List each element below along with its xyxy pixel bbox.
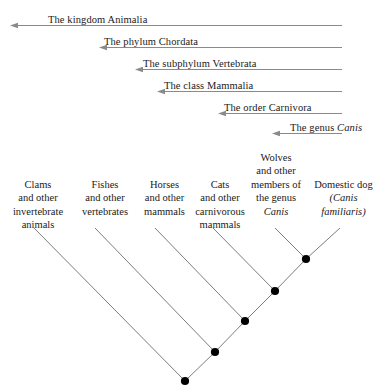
taxon-label-line: invertebrate: [2, 205, 74, 218]
taxon-label-line: Wolves: [240, 151, 312, 164]
cladogram-branch: [306, 228, 340, 259]
cladogram-node-mammalia-node: [271, 287, 279, 295]
taxon-label-line: and other: [71, 191, 139, 204]
taxon-label-line: Canis: [240, 205, 312, 218]
cladogram-node-animalia-node: [181, 377, 189, 385]
rank-row-genus: The genus Canis: [0, 114, 382, 138]
cladogram-branch: [275, 259, 306, 291]
rank-row-phylum: The phylum Chordata: [0, 28, 382, 52]
taxon-label-line: Domestic dog: [305, 178, 382, 191]
taxon-label-line: Clams: [2, 178, 74, 191]
taxon-label-italic: Canis: [264, 206, 289, 217]
taxon-label-domestic-dog: Domestic dog(Canisfamiliaris): [305, 178, 382, 218]
cladogram-node-canis-node: [302, 255, 310, 263]
rank-row-kingdom: The kingdom Animalia: [0, 6, 382, 30]
rank-row-class: The class Mammalia: [0, 72, 382, 96]
cladogram-branch: [155, 228, 245, 321]
taxon-label-wolves: Wolvesand othermembers ofthe genusCanis: [240, 151, 312, 218]
taxon-label-line: (Canis: [305, 191, 382, 204]
cladogram-branch: [213, 228, 275, 291]
cladogram-branch: [215, 321, 245, 352]
rank-row-subphylum: The subphylum Vertebrata: [0, 50, 382, 74]
taxon-label-fishes: Fishesand othervertebrates: [71, 178, 139, 218]
taxon-label-line: and other: [2, 191, 74, 204]
cladogram-branch: [95, 228, 215, 352]
cladogram-branch: [275, 228, 306, 259]
taxon-label-line: familiaris): [305, 205, 382, 218]
taxon-label-line: animals: [2, 218, 74, 231]
taxon-label-line: Fishes: [71, 178, 139, 191]
rank-arrow-genus: [0, 129, 382, 138]
taxon-label-line: members of: [240, 178, 312, 191]
taxonomy-cladogram-figure: The kingdom AnimaliaThe phylum ChordataT…: [0, 0, 382, 390]
taxon-label-italic: familiaris): [321, 206, 365, 217]
cladogram-node-chordata-node: [211, 348, 219, 356]
cladogram-branch: [34, 228, 185, 381]
cladogram-branch: [245, 291, 275, 321]
taxon-label-line: vertebrates: [71, 205, 139, 218]
cladogram-branch: [185, 352, 215, 381]
taxon-label-line: mammals: [185, 218, 255, 231]
taxon-label-line: the genus: [240, 191, 312, 204]
taxon-label-line: and other: [240, 164, 312, 177]
taxon-label-italic: (Canis: [329, 192, 357, 203]
taxon-label-clams: Clamsand otherinvertebrateanimals: [2, 178, 74, 232]
cladogram-node-vertebrata-node: [241, 317, 249, 325]
